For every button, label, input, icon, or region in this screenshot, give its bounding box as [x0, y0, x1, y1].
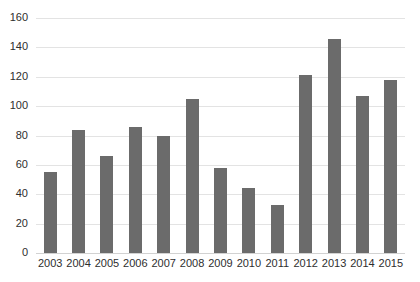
gridline-100: [36, 106, 405, 107]
plot-area: [36, 18, 405, 253]
bar-2007: [157, 136, 170, 254]
bar-2009: [214, 168, 227, 253]
gridline-60: [36, 165, 405, 166]
bar-2015: [384, 80, 397, 253]
gridline-120: [36, 77, 405, 78]
bar-2010: [242, 188, 255, 253]
y-tick-label-140: 140: [0, 41, 28, 52]
x-axis-labels: 2003200420052006200720082009201020112012…: [0, 257, 420, 277]
y-tick-label-20: 20: [0, 218, 28, 229]
y-tick-label-60: 60: [0, 159, 28, 170]
bar-chart: 020406080100120140160 200320042005200620…: [0, 0, 420, 282]
gridline-160: [36, 18, 405, 19]
bar-2014: [356, 96, 369, 253]
bar-2013: [328, 39, 341, 253]
gridline-80: [36, 136, 405, 137]
bar-2006: [129, 127, 142, 253]
x-tick-label-2015: 2015: [374, 257, 408, 269]
bar-2003: [44, 172, 57, 253]
y-tick-label-100: 100: [0, 100, 28, 111]
bar-2011: [271, 205, 284, 253]
y-tick-label-120: 120: [0, 71, 28, 82]
gridline-140: [36, 47, 405, 48]
bar-2004: [72, 130, 85, 253]
bar-2008: [186, 99, 199, 253]
bar-2005: [100, 156, 113, 253]
y-tick-label-160: 160: [0, 12, 28, 23]
gridline-0: [36, 253, 405, 254]
bar-2012: [299, 75, 312, 253]
y-tick-label-40: 40: [0, 188, 28, 199]
y-tick-label-80: 80: [0, 130, 28, 141]
